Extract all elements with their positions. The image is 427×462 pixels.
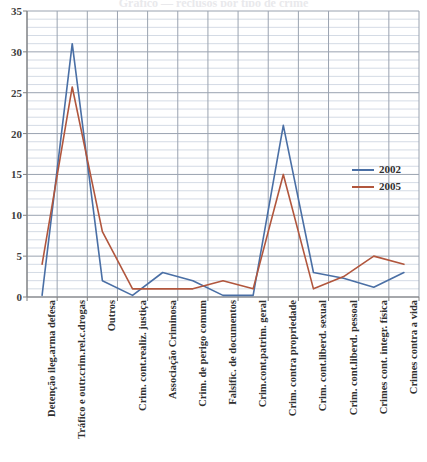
x-axis-label: Crimes contra a vida <box>408 300 419 394</box>
y-axis-tick-label: 20 <box>2 129 22 139</box>
x-axis-label: Crim. cont.realiz. justiça <box>137 300 148 411</box>
x-axis-label: Crimes cont. integr. física <box>378 300 389 414</box>
chart-legend: 2002 2005 <box>352 161 424 195</box>
x-axis-label: Crim. contra propriedade <box>287 300 298 416</box>
y-axis-tick-label: 25 <box>2 88 22 98</box>
x-axis-label: Detenção ileg.arma defesa <box>46 300 57 417</box>
legend-swatch-2005 <box>352 186 374 188</box>
x-axis-label: Tráfico e outr.crim.rel.c.drogas <box>76 300 87 439</box>
y-axis-tick-label: 10 <box>2 210 22 220</box>
y-axis-tick-label: 5 <box>2 251 22 261</box>
legend-label-2002: 2002 <box>379 164 401 175</box>
y-axis-tick-label: 35 <box>2 6 22 16</box>
y-axis-tick-label: 15 <box>2 169 22 179</box>
x-axis-label: Crim. de perigo comum <box>197 300 208 407</box>
x-axis-label: Associação Criminosa <box>167 300 178 399</box>
legend-item-2002[interactable]: 2002 <box>352 161 424 178</box>
legend-label-2005: 2005 <box>379 181 401 192</box>
x-axis-label: Crim. cont.liberd. sexual <box>317 300 328 411</box>
y-axis-tick-label: 30 <box>2 47 22 57</box>
x-axis-labels: Detenção ileg.arma defesaTráfico e outr.… <box>0 300 427 462</box>
x-axis-label: Falsific. de documentos <box>227 300 238 405</box>
x-axis-label: Crim. cont.liberd. pessoal <box>348 300 359 415</box>
x-axis-label: Crim.cont.patrim. geral <box>257 300 268 407</box>
x-axis-label: Outros <box>106 300 117 331</box>
legend-item-2005[interactable]: 2005 <box>352 178 424 195</box>
legend-swatch-2002 <box>352 169 374 171</box>
chart-root: Gráfico — reclusos por tipo de crime 051… <box>0 0 427 462</box>
